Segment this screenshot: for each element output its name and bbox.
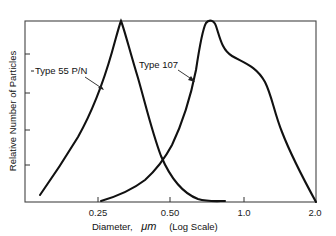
- y-axis-ticks: [25, 54, 30, 165]
- x-tick-label-0.50: 0.50: [161, 207, 180, 218]
- x-tick-label-1.0: 1.0: [237, 207, 250, 218]
- x-axis-label-scale: (Log Scale): [169, 221, 218, 232]
- x-axis-label: Diameter, μm (Log Scale): [92, 220, 218, 232]
- y-axis-label: Relative Number of Particles: [7, 51, 18, 172]
- series-type-55-pn-curve: [40, 21, 225, 201]
- x-tick-label-2.0: 2.0: [308, 207, 321, 218]
- x-axis-label-main: Diameter,: [92, 221, 133, 232]
- annotation-type-107: Type 107: [139, 59, 178, 70]
- annotation-type-55-pn: Type 55 P/N: [35, 65, 87, 76]
- series-type-107-curve: [101, 21, 316, 202]
- x-tick-label-0.25: 0.25: [89, 207, 108, 218]
- x-axis-label-unit: μm: [140, 220, 156, 232]
- particle-size-chart: 0.25 0.50 1.0 2.0 Diameter, μm (Log Scal…: [0, 0, 336, 236]
